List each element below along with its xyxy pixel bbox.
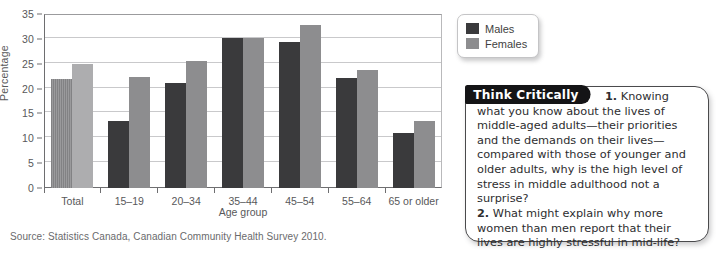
question-2-text: What might explain why more women than m… bbox=[477, 207, 680, 249]
x-tick-mark bbox=[328, 188, 329, 193]
male-swatch-icon bbox=[466, 23, 479, 34]
x-tick-mark bbox=[44, 188, 45, 193]
x-tick-mark bbox=[157, 188, 158, 193]
legend-item-females: Females bbox=[466, 36, 527, 51]
bar-males bbox=[51, 79, 72, 188]
bar-males bbox=[336, 78, 357, 188]
bar-group bbox=[271, 14, 328, 188]
bar-group bbox=[101, 14, 158, 188]
bar-males bbox=[279, 42, 300, 188]
bar-males bbox=[165, 83, 186, 188]
think-critically-body: 1. Knowing what you know about the lives… bbox=[477, 90, 698, 251]
y-axis-tick-labels: 05101520253035 bbox=[0, 14, 42, 188]
bar-females bbox=[72, 64, 93, 188]
y-tick-mark bbox=[37, 163, 42, 164]
x-tick-mark bbox=[100, 188, 101, 193]
y-tick-label: 10 bbox=[22, 132, 34, 144]
female-swatch-icon bbox=[466, 38, 479, 49]
legend-label-females: Females bbox=[485, 38, 527, 50]
bar-females bbox=[129, 77, 150, 188]
y-tick-mark bbox=[37, 138, 42, 139]
bar-females bbox=[186, 61, 207, 188]
y-tick-label: 20 bbox=[22, 83, 34, 95]
bar-males bbox=[393, 133, 414, 188]
question-2-number: 2. bbox=[477, 207, 489, 220]
y-tick-mark bbox=[37, 113, 42, 114]
y-tick-label: 30 bbox=[22, 33, 34, 45]
y-tick-mark bbox=[37, 38, 42, 39]
y-tick-label: 25 bbox=[22, 58, 34, 70]
y-tick-label: 0 bbox=[28, 182, 34, 194]
legend-label-males: Males bbox=[485, 23, 514, 35]
question-1-number: 1. bbox=[605, 90, 617, 103]
y-tick-mark bbox=[37, 63, 42, 64]
y-tick-mark bbox=[37, 188, 42, 189]
x-axis-title: Age group bbox=[44, 206, 442, 218]
y-tick-label: 15 bbox=[22, 107, 34, 119]
bar-group bbox=[215, 14, 272, 188]
y-tick-mark bbox=[37, 14, 42, 15]
chart-legend: Males Females bbox=[457, 14, 539, 58]
think-critically-question-1: 1. Knowing what you know about the lives… bbox=[477, 90, 698, 207]
source-note: Source: Statistics Canada, Canadian Comm… bbox=[10, 231, 327, 242]
bar-group bbox=[385, 14, 442, 188]
y-tick-label: 5 bbox=[28, 157, 34, 169]
bar-group bbox=[44, 14, 101, 188]
y-tick-label: 35 bbox=[22, 8, 34, 20]
x-tick-mark bbox=[385, 188, 386, 193]
bar-females bbox=[300, 25, 321, 188]
y-tick-mark bbox=[37, 88, 42, 89]
bar-males bbox=[108, 121, 129, 188]
bar-females bbox=[243, 38, 264, 188]
bar-females bbox=[414, 121, 435, 188]
bar-chart-figure: Percentage 05101520253035 Total15–1920–3… bbox=[0, 0, 455, 254]
legend-item-males: Males bbox=[466, 21, 527, 36]
think-critically-box: Think Critically 1. Knowing what you kno… bbox=[465, 86, 709, 242]
bars-layer bbox=[44, 14, 442, 188]
bar-group bbox=[158, 14, 215, 188]
plot-wrapper bbox=[44, 14, 442, 188]
bar-males bbox=[222, 38, 243, 188]
bar-females bbox=[357, 70, 378, 188]
question-1-text: Knowing what you know about the lives of… bbox=[477, 90, 686, 205]
bar-group bbox=[328, 14, 385, 188]
think-critically-question-2: 2. What might explain why more women tha… bbox=[477, 207, 698, 251]
x-tick-mark bbox=[271, 188, 272, 193]
x-tick-mark bbox=[214, 188, 215, 193]
